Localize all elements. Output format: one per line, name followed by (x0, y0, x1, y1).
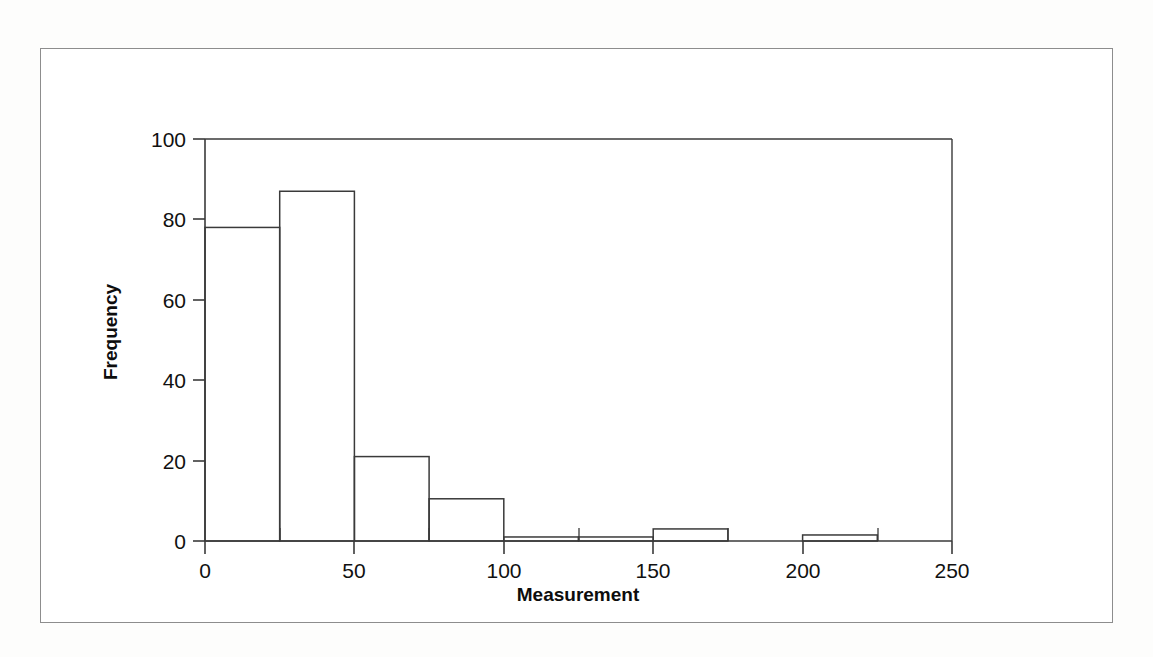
histogram-bar (653, 529, 728, 541)
x-tick-label-100: 100 (486, 559, 521, 582)
y-tick-label-40: 40 (163, 369, 186, 392)
y-tick-label-100: 100 (151, 128, 186, 151)
x-tick-labels: 0 50 100 150 200 250 (199, 559, 969, 582)
x-tick-label-200: 200 (785, 559, 820, 582)
x-tick-label-250: 250 (934, 559, 969, 582)
histogram-bar (803, 535, 878, 541)
histogram-bar (579, 537, 654, 541)
histogram-bar (280, 191, 355, 541)
histogram-bar (429, 499, 504, 541)
y-tick-labels: 100 80 60 40 20 0 (151, 128, 186, 553)
histogram-bar (354, 457, 429, 541)
x-axis-title: Measurement (517, 584, 640, 605)
axes-group (205, 139, 952, 541)
y-tick-label-60: 60 (163, 289, 186, 312)
histogram-bars (205, 191, 877, 541)
histogram-bar (205, 227, 280, 541)
y-tick-marks (193, 139, 205, 541)
histogram-bar (504, 537, 579, 541)
y-tick-label-80: 80 (163, 208, 186, 231)
x-tick-label-150: 150 (635, 559, 670, 582)
page-canvas: 100 80 60 40 20 0 0 50 100 (0, 0, 1153, 657)
y-tick-label-0: 0 (174, 530, 186, 553)
x-tick-label-50: 50 (342, 559, 365, 582)
x-tick-label-0: 0 (199, 559, 211, 582)
x-major-tick-marks (205, 541, 952, 554)
histogram-chart: 100 80 60 40 20 0 0 50 100 (0, 0, 1153, 657)
y-axis-title: Frequency (100, 284, 121, 381)
y-tick-label-20: 20 (163, 450, 186, 473)
